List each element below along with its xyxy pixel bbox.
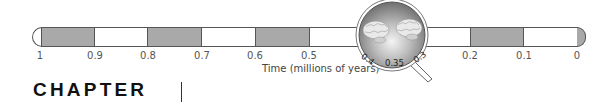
divider xyxy=(523,27,524,47)
divider xyxy=(309,27,310,47)
segment-1-0.9 xyxy=(41,27,94,47)
tick-label: 0.5 xyxy=(301,50,317,61)
segment-0.7-0.6 xyxy=(201,27,255,47)
divider xyxy=(94,27,95,47)
segment-0.8-0.7 xyxy=(147,27,201,47)
magnifying-glass-icon: 0.4 0.35 0.3 xyxy=(352,0,436,83)
lens-label-center: 0.35 xyxy=(385,58,404,68)
divider xyxy=(201,27,202,47)
timeline-diagram: 1 0.9 0.8 0.7 0.6 0.5 0.2 0.1 0 Time (mi… xyxy=(0,0,612,80)
tick-label: 0.7 xyxy=(194,50,210,61)
chapter-number xyxy=(181,82,182,102)
divider xyxy=(255,27,256,47)
divider xyxy=(470,27,471,47)
timeline-right-cap xyxy=(577,27,586,47)
segment-0.9-0.8 xyxy=(94,27,147,47)
divider xyxy=(41,27,42,47)
tick-label: 0.2 xyxy=(462,50,478,61)
chapter-heading: CHAPTER xyxy=(33,80,147,100)
tick-label: 0.8 xyxy=(140,50,156,61)
segment-0.6-0.5 xyxy=(255,27,309,47)
segment-0.1-0 xyxy=(523,27,577,47)
tick-label: 1 xyxy=(37,50,43,61)
tick-label: 0 xyxy=(574,50,580,61)
tick-label: 0.9 xyxy=(87,50,103,61)
divider xyxy=(147,27,148,47)
segment-0.2-0.1 xyxy=(470,27,523,47)
tick-label: 0.1 xyxy=(516,50,532,61)
tick-label: 0.6 xyxy=(247,50,263,61)
